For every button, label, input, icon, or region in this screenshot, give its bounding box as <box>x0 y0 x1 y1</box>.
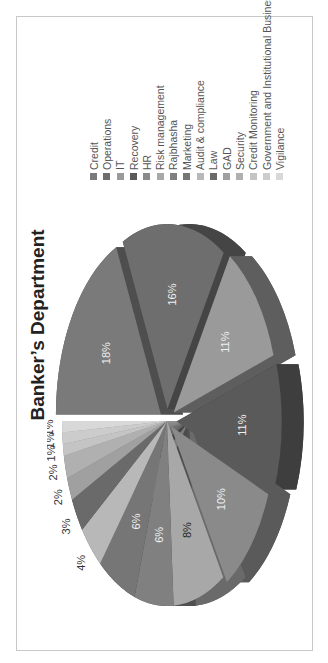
slice-percent-label: 11% <box>236 414 248 435</box>
legend-label: HR <box>141 155 153 170</box>
legend-label: Marketing <box>181 124 193 170</box>
chart-title: Banker’s Department <box>27 195 49 455</box>
slice-percent-label: 4% <box>75 555 87 571</box>
legend-swatch-icon <box>223 173 230 180</box>
legend-item: Government and Institutional Business <box>260 20 273 180</box>
legend-label: Government and Institutional Business <box>261 0 273 170</box>
legend-item: Risk management <box>153 20 166 180</box>
legend-item: Marketing <box>180 20 193 180</box>
legend-item: IT <box>114 20 127 180</box>
chart-slide: Banker’s Department 18%16%11%11%10%8%6%6… <box>17 16 314 651</box>
pie-chart: 18%16%11%11%10%8%6%6%4%3%2%2%1%1%1% <box>47 171 312 631</box>
legend-swatch-icon <box>276 173 283 180</box>
legend-swatch-icon <box>250 173 257 180</box>
legend-swatch-icon <box>90 173 97 180</box>
legend-item: HR <box>140 20 153 180</box>
legend-label: Risk management <box>154 85 166 170</box>
legend-swatch-icon <box>197 173 204 180</box>
legend-item: Recovery <box>127 20 140 180</box>
legend-swatch-icon <box>157 173 164 180</box>
legend-swatch-icon <box>183 173 190 180</box>
legend-label: Rajbhasha <box>167 120 179 170</box>
legend-swatch-icon <box>170 173 177 180</box>
legend-item: Audit & compliance <box>193 20 206 180</box>
legend-swatch-icon <box>103 173 110 180</box>
legend-swatch-icon <box>130 173 137 180</box>
legend-label: Vigilance <box>274 128 286 170</box>
slice-percent-label: 16% <box>166 283 178 305</box>
legend-item: Operations <box>100 20 113 180</box>
legend-item: GAD <box>220 20 233 180</box>
legend-label: Credit Monitoring <box>247 90 259 170</box>
slice-percent-label: 11% <box>219 331 231 352</box>
legend-label: Recovery <box>128 126 140 170</box>
legend-label: Law <box>207 151 219 170</box>
legend-swatch-icon <box>236 173 243 180</box>
slice-percent-label: 6% <box>130 513 142 529</box>
legend-label: GAD <box>221 147 233 170</box>
legend-label: Operations <box>101 119 113 170</box>
legend-item: Law <box>207 20 220 180</box>
legend-label: Audit & compliance <box>194 80 206 170</box>
chart-legend: CreditOperationsITRecoveryHRRisk managem… <box>87 20 286 180</box>
legend-item: Vigilance <box>273 20 286 180</box>
slice-percent-label: 2% <box>52 489 64 505</box>
legend-label: Security <box>234 132 246 170</box>
legend-swatch-icon <box>143 173 150 180</box>
pie-chart-svg: 18%16%11%11%10%8%6%6%4%3%2%2%1%1%1% <box>47 171 312 631</box>
legend-swatch-icon <box>210 173 217 180</box>
slice-percent-label: 1% <box>47 419 55 435</box>
slice-percent-label: 18% <box>100 342 112 364</box>
slice-percent-label: 10% <box>215 488 227 510</box>
legend-swatch-icon <box>117 173 124 180</box>
legend-item: Rajbhasha <box>167 20 180 180</box>
slice-percent-label: 6% <box>153 527 165 543</box>
legend-item: Credit Monitoring <box>247 20 260 180</box>
slice-percent-label: 2% <box>47 464 59 480</box>
legend-item: Security <box>233 20 246 180</box>
legend-label: IT <box>114 161 126 170</box>
legend-label: Credit <box>88 142 100 170</box>
slice-percent-label: 8% <box>181 522 193 538</box>
legend-item: Credit <box>87 20 100 180</box>
slice-percent-label: 3% <box>60 518 72 534</box>
legend-swatch-icon <box>263 173 270 180</box>
